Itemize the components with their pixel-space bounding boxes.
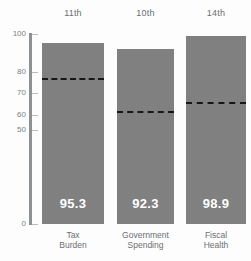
category-label-line: Health xyxy=(176,240,251,250)
bar-value-fiscal-health: 98.9 xyxy=(186,196,246,211)
category-label-line: Tax xyxy=(32,230,114,240)
reference-line-tax-burden xyxy=(42,78,104,80)
bar-chart: 11th 10th 14th 050607080100 95.3 92.3 98… xyxy=(0,0,251,261)
plot-area: 95.3 92.3 98.9 xyxy=(0,0,251,261)
category-label-line: Fiscal xyxy=(176,230,251,240)
bar-value-government-spending: 92.3 xyxy=(117,196,174,211)
category-label-fiscal-health: FiscalHealth xyxy=(176,230,251,250)
reference-line-fiscal-health xyxy=(186,102,246,104)
category-label-line: Government xyxy=(107,230,184,240)
category-label-government-spending: GovernmentSpending xyxy=(107,230,184,250)
category-label-tax-burden: TaxBurden xyxy=(32,230,114,250)
reference-line-government-spending xyxy=(117,111,174,113)
bar-value-tax-burden: 95.3 xyxy=(42,196,104,211)
category-label-line: Spending xyxy=(107,240,184,250)
category-label-line: Burden xyxy=(32,240,114,250)
